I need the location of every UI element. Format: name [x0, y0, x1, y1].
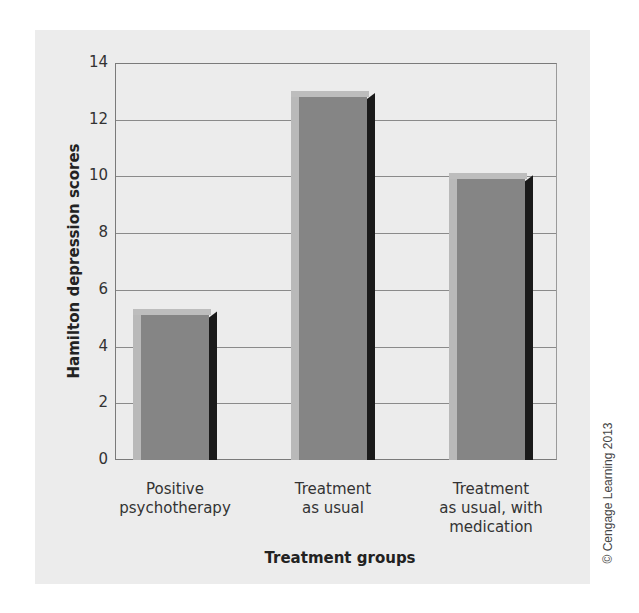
y-axis-title: Hamilton depression scores [65, 143, 83, 378]
x-tick-label: Positivepsychotherapy [100, 480, 250, 518]
bar-shadow [525, 175, 533, 460]
bar-shadow [367, 93, 375, 460]
bar-face [457, 179, 525, 460]
x-tick-label: Treatmentas usual, withmedication [416, 480, 566, 537]
bar-face [299, 97, 367, 460]
y-tick-label: 0 [70, 451, 108, 467]
bar-shadow [209, 311, 217, 460]
bar-highlight [449, 173, 457, 460]
bar [133, 309, 217, 460]
x-axis-title: Treatment groups [200, 549, 480, 567]
bar [449, 173, 533, 460]
bar-face [141, 315, 209, 460]
x-tick-label: Treatmentas usual [258, 480, 408, 518]
y-tick-label: 12 [70, 111, 108, 127]
bar [291, 91, 375, 460]
y-tick-label: 14 [70, 54, 108, 70]
copyright-credit: © Cengage Learning 2013 [601, 423, 615, 564]
bar-highlight [133, 309, 141, 460]
y-tick-label: 2 [70, 394, 108, 410]
bar-highlight [291, 91, 299, 460]
